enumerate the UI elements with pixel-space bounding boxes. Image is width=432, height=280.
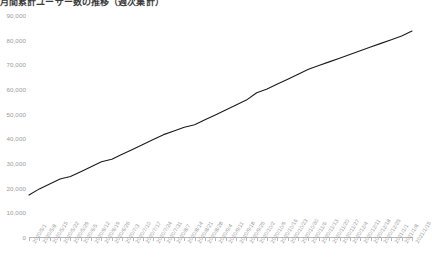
- series-line: [29, 31, 412, 195]
